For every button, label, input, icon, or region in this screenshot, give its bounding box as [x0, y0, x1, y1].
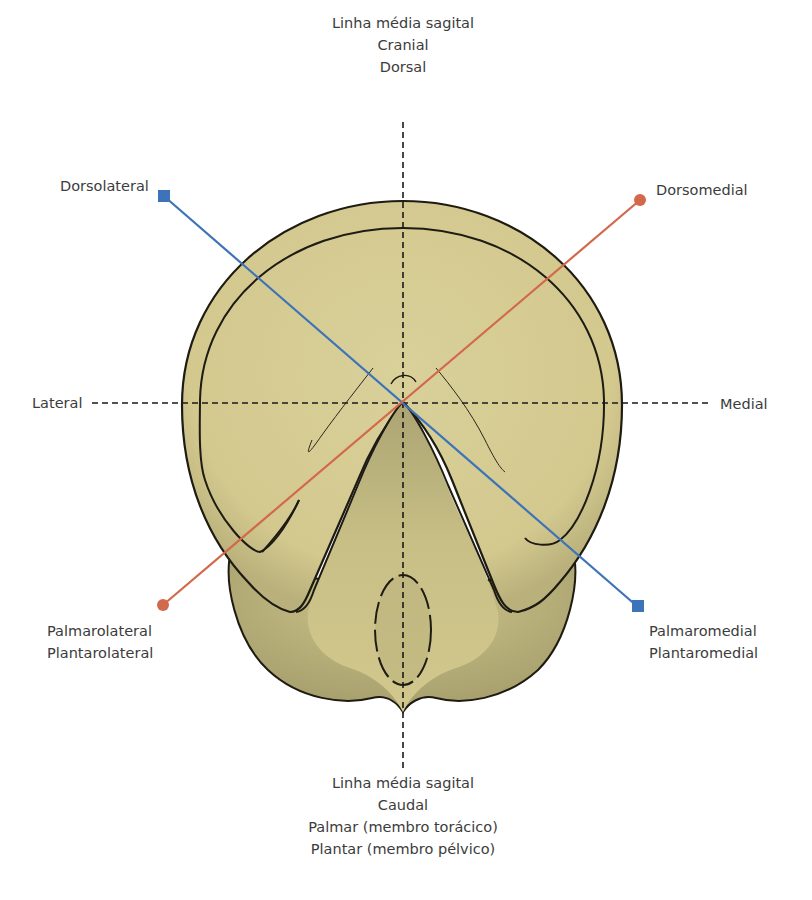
label-palmaromedial: Palmaromedial Plantaromedial	[649, 620, 758, 664]
palmaromedial-square-marker	[632, 600, 644, 612]
label-bottom-line-4: Plantar (membro pélvico)	[283, 838, 523, 860]
label-dorsomedial: Dorsomedial	[656, 179, 748, 201]
label-top: Linha média sagital Cranial Dorsal	[303, 12, 503, 78]
label-medial: Medial	[720, 393, 768, 415]
palmarolateral-circle-marker	[157, 599, 169, 611]
label-top-line-3: Dorsal	[303, 56, 503, 78]
label-lateral: Lateral	[32, 392, 82, 414]
label-palmaromedial-line-1: Palmaromedial	[649, 620, 758, 642]
label-top-line-1: Linha média sagital	[303, 12, 503, 34]
label-palmarolateral: Palmarolateral Plantarolateral	[47, 620, 153, 664]
label-palmarolateral-line-1: Palmarolateral	[47, 620, 153, 642]
label-dorsolateral: Dorsolateral	[60, 175, 149, 197]
label-bottom: Linha média sagital Caudal Palmar (membr…	[283, 772, 523, 860]
label-bottom-line-3: Palmar (membro torácico)	[283, 816, 523, 838]
label-bottom-line-2: Caudal	[283, 794, 523, 816]
label-bottom-line-1: Linha média sagital	[283, 772, 523, 794]
dorsolateral-square-marker	[158, 190, 170, 202]
hoof-orientation-diagram	[0, 0, 812, 900]
central-sulcus	[375, 575, 431, 685]
label-palmarolateral-line-2: Plantarolateral	[47, 642, 153, 664]
dorsomedial-circle-marker	[634, 194, 646, 206]
label-top-line-2: Cranial	[303, 34, 503, 56]
label-palmaromedial-line-2: Plantaromedial	[649, 642, 758, 664]
